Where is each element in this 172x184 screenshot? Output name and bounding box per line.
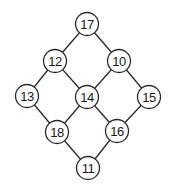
node-label: 10 — [112, 54, 126, 69]
node-17: 17 — [76, 13, 99, 36]
node-13: 13 — [16, 85, 39, 108]
node-label: 16 — [110, 124, 124, 139]
node-label: 12 — [48, 54, 62, 69]
node-label: 17 — [80, 17, 94, 32]
node-14: 14 — [76, 86, 99, 109]
node-label: 15 — [142, 90, 156, 105]
graph-diagram: 171210131415181611 — [0, 0, 172, 184]
node-18: 18 — [46, 121, 69, 144]
node-label: 18 — [50, 125, 64, 140]
nodes: 171210131415181611 — [16, 13, 161, 180]
node-10: 10 — [108, 50, 131, 73]
node-11: 11 — [77, 157, 100, 180]
node-label: 11 — [82, 161, 95, 176]
node-label: 14 — [80, 90, 94, 105]
node-12: 12 — [44, 50, 67, 73]
node-15: 15 — [138, 86, 161, 109]
node-label: 13 — [20, 89, 34, 104]
node-16: 16 — [106, 120, 129, 143]
